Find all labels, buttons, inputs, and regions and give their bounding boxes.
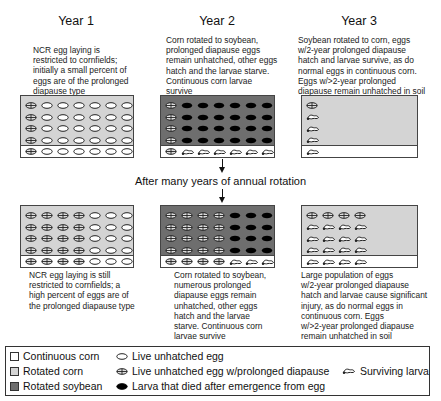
strip-row <box>165 147 277 156</box>
continuous-corn-strip <box>161 145 274 157</box>
dead-larva-icon <box>229 123 245 135</box>
prolonged-diapause-egg-icon <box>165 233 181 245</box>
legend: Continuous corn Rotated corn Rotated soy… <box>5 346 430 396</box>
prolonged-diapause-egg-icon <box>197 233 213 245</box>
live-egg-icon <box>41 112 57 124</box>
surviving-larva-icon <box>306 233 322 245</box>
surviving-larva-icon <box>213 147 229 156</box>
prolonged-diapause-egg-icon <box>25 147 41 156</box>
prolonged-diapause-egg-icon <box>165 123 181 135</box>
year-2-title: Year 2 <box>147 14 287 28</box>
continuous-corn-strip <box>302 145 417 157</box>
prolonged-diapause-egg-icon <box>322 210 338 222</box>
live-egg-icon <box>105 210 121 222</box>
dead-larva-icon <box>197 123 213 135</box>
dead-larva-icon <box>229 233 245 245</box>
dead-larva-icon <box>229 222 245 234</box>
prolonged-diapause-egg-icon <box>354 210 370 222</box>
surviving-larva-icon <box>229 147 245 156</box>
dead-larva-icon <box>245 100 261 112</box>
prolonged-diapause-egg-icon <box>41 257 57 266</box>
egg-grid <box>25 210 137 256</box>
surviving-larva-icon <box>306 257 322 266</box>
dead-larva-icon <box>213 112 229 124</box>
continuous-corn-strip <box>161 255 274 267</box>
dead-larva-icon <box>245 112 261 124</box>
live-egg-icon <box>105 233 121 245</box>
live-egg-icon <box>89 233 105 245</box>
live-egg-icon <box>105 100 121 112</box>
prolonged-diapause-egg-icon <box>165 222 181 234</box>
dead-larva-icon <box>261 100 277 112</box>
dead-larva-icon <box>245 210 261 222</box>
prolonged-diapause-egg-icon <box>57 222 73 234</box>
live-egg-icon <box>89 147 105 156</box>
egg-grid <box>306 100 418 146</box>
live-egg-icon <box>57 123 73 135</box>
live-egg-icon <box>105 257 121 266</box>
dead-larva-icon <box>116 383 128 390</box>
prolonged-diapause-egg-icon <box>165 112 181 124</box>
live-egg-icon <box>73 112 89 124</box>
surviving-larva-icon <box>354 257 370 266</box>
dead-larva-icon <box>261 222 277 234</box>
live-egg-icon <box>57 100 73 112</box>
prolonged-diapause-egg-icon <box>41 222 57 234</box>
prolonged-diapause-egg-icon <box>165 257 181 266</box>
prolonged-diapause-egg-icon <box>41 233 57 245</box>
prolonged-diapause-egg-icon <box>197 257 213 266</box>
legend-dead-larva: Larva that died after emergence from egg <box>116 380 325 392</box>
year-2-field-panel <box>160 95 275 158</box>
strip-row <box>25 147 137 156</box>
later-year-2-field-panel <box>160 205 275 268</box>
legend-rotated-corn: Rotated corn <box>10 365 83 377</box>
later-year-3-description: Large population of eggsw/2-year prolong… <box>301 270 441 341</box>
dead-larva-icon <box>261 112 277 124</box>
arrow-head-1-icon <box>219 167 225 173</box>
prolonged-diapause-egg-icon <box>25 100 41 112</box>
dead-larva-icon <box>261 123 277 135</box>
live-egg-icon <box>121 147 137 156</box>
surviving-larva-icon <box>245 257 261 266</box>
prolonged-diapause-egg-icon <box>181 233 197 245</box>
live-egg-icon <box>89 123 105 135</box>
surviving-larva-icon <box>322 233 338 245</box>
prolonged-diapause-egg-icon <box>306 210 322 222</box>
legend-live-egg: Live unhatched egg <box>116 350 224 362</box>
prolonged-diapause-egg-icon <box>116 368 128 375</box>
prolonged-diapause-egg-icon <box>181 210 197 222</box>
prolonged-diapause-egg-icon <box>57 233 73 245</box>
dead-larva-icon <box>245 123 261 135</box>
egg-grid <box>165 210 277 256</box>
prolonged-diapause-egg-icon <box>25 257 41 266</box>
rotated-corn-field <box>302 206 417 257</box>
later-year-1-description: NCR egg laying is stillrestricted to cor… <box>29 270 154 311</box>
surviving-larva-icon <box>338 233 354 245</box>
prolonged-diapause-egg-icon <box>25 222 41 234</box>
later-year-1-field-panel <box>20 205 134 268</box>
egg-grid <box>306 210 418 256</box>
rotated-corn-field <box>21 206 133 257</box>
prolonged-diapause-egg-icon <box>25 112 41 124</box>
live-egg-icon <box>121 123 137 135</box>
prolonged-diapause-egg-icon <box>213 222 229 234</box>
surviving-larva-icon <box>245 147 261 156</box>
live-egg-icon <box>121 233 137 245</box>
rotated-corn-field <box>302 96 417 147</box>
surviving-larva-icon <box>306 112 322 124</box>
prolonged-diapause-egg-icon <box>165 100 181 112</box>
prolonged-diapause-egg-icon <box>73 233 89 245</box>
live-egg-icon <box>41 147 57 156</box>
continuous-corn-strip <box>21 255 133 267</box>
live-egg-icon <box>89 112 105 124</box>
legend-continuous-corn: Continuous corn <box>10 350 99 362</box>
prolonged-diapause-egg-icon <box>213 233 229 245</box>
rotated-corn-swatch <box>10 367 19 376</box>
dead-larva-icon <box>181 112 197 124</box>
prolonged-diapause-egg-icon <box>181 257 197 266</box>
strip-row <box>25 257 137 266</box>
prolonged-diapause-egg-icon <box>165 147 181 156</box>
prolonged-diapause-egg-icon <box>73 210 89 222</box>
dead-larva-icon <box>245 222 261 234</box>
prolonged-diapause-egg-icon <box>57 210 73 222</box>
